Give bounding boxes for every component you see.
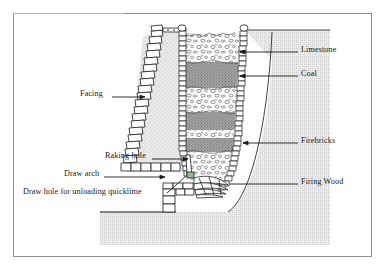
facing-base-course <box>121 163 180 171</box>
shaft-rim-stones <box>178 25 248 31</box>
label-raking-hole: Raking hole <box>105 151 146 160</box>
label-draw-arch: Draw arch <box>64 169 99 178</box>
label-draw-hole: Draw hole for unloading quicklime <box>23 187 142 196</box>
draw-arch[interactable] <box>187 172 194 178</box>
label-firing-wood: Firing Wood <box>301 177 343 186</box>
label-limestone: Limestone <box>301 45 336 54</box>
draw-hole-structure <box>163 183 194 212</box>
charge-coal-1 <box>183 62 245 88</box>
label-firebricks: Firebricks <box>301 136 335 145</box>
charge-limestone-1 <box>183 32 245 62</box>
label-facing: Facing <box>80 89 103 98</box>
figure-container: Limestone Coal Firebricks Firing Wood Fa… <box>0 0 385 271</box>
label-coal: Coal <box>301 69 317 78</box>
